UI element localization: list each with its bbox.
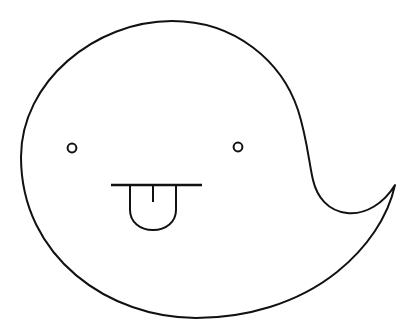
ghost-doodle-svg <box>0 0 417 335</box>
canvas-background <box>0 0 417 335</box>
drawing-canvas: Ghost Face Doodle <box>0 0 417 335</box>
